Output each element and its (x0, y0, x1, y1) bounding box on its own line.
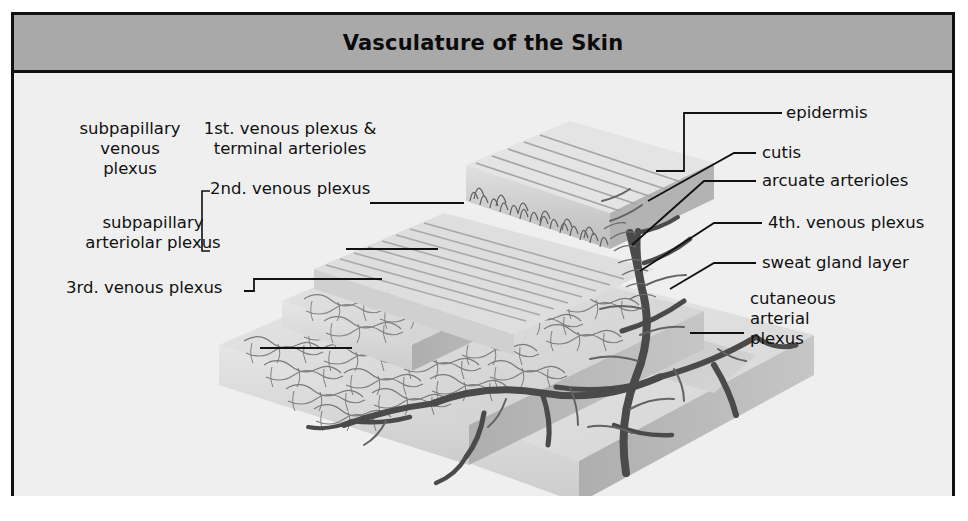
label-fourth-venous-plexus: 4th. venous plexus (768, 213, 924, 233)
figure-title-bar: Vasculature of the Skin (14, 15, 952, 73)
page-title: Vasculature of the Skin (14, 31, 952, 55)
diagram-canvas: subpapillary venous plexus 1st. venous p… (14, 73, 952, 496)
label-subpapillary-venous-plexus: subpapillary venous plexus (60, 119, 200, 179)
label-second-venous-plexus: 2nd. venous plexus (210, 179, 370, 199)
label-cutis: cutis (762, 143, 801, 163)
label-cutaneous-arterial-plexus: cutaneous arterial plexus (750, 289, 836, 349)
figure-panel: Vasculature of the Skin (11, 12, 955, 496)
label-arcuate-arterioles: arcuate arterioles (762, 171, 908, 191)
label-subpapillary-arteriolar-plexus: subpapillary arteriolar plexus (60, 213, 246, 253)
label-sweat-gland-layer: sweat gland layer (762, 253, 909, 273)
label-epidermis: epidermis (786, 103, 868, 123)
label-first-venous-plexus: 1st. venous plexus & terminal arterioles (200, 119, 380, 159)
label-third-venous-plexus: 3rd. venous plexus (66, 278, 222, 298)
